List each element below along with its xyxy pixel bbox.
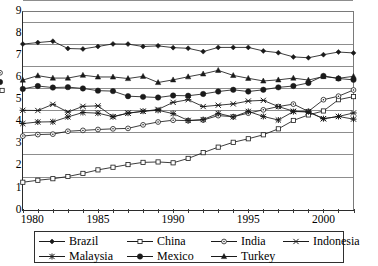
data-point [0, 70, 2, 75]
chart-legend: BrazilChinaIndiaIndonesiaMalaysiaMexicoT… [34, 231, 344, 263]
data-point [35, 108, 41, 113]
data-point [50, 85, 55, 90]
data-point [65, 114, 71, 120]
data-point [261, 133, 265, 137]
data-point [351, 88, 356, 93]
data-point [125, 93, 130, 98]
legend-item-china[interactable]: China [127, 233, 186, 249]
data-point [260, 113, 266, 119]
legend-row: MalaysiaMexicoTurkey [35, 248, 343, 264]
data-point [110, 88, 115, 93]
data-point [231, 87, 236, 92]
legend-item-indonesia[interactable]: Indonesia [283, 233, 360, 249]
legend-label: Brazil [65, 235, 98, 247]
legend-item-malaysia[interactable]: Malaysia [39, 248, 113, 264]
data-point [350, 110, 356, 115]
legend-label: Malaysia [65, 250, 113, 262]
legend-item-brazil[interactable]: Brazil [39, 233, 98, 249]
data-point [216, 89, 221, 94]
legend-marker-filled-circle-icon [127, 251, 153, 261]
data-point [80, 46, 85, 51]
data-point [276, 127, 280, 131]
legend-item-turkey[interactable]: Turkey [211, 248, 275, 264]
data-point [36, 178, 40, 182]
data-point [246, 45, 251, 50]
legend-marker-filled-triangle-icon [211, 251, 237, 261]
data-point [170, 100, 176, 105]
data-point [201, 151, 205, 155]
data-point [276, 50, 281, 55]
data-point [215, 103, 221, 108]
data-point [231, 140, 235, 144]
data-point [185, 117, 191, 123]
legend-label: Mexico [153, 250, 194, 262]
legend-label: China [153, 235, 186, 247]
data-point [21, 180, 25, 184]
data-series-layer [0, 0, 378, 266]
data-point [65, 109, 71, 114]
data-point [35, 40, 40, 45]
data-point [305, 109, 311, 115]
chart-figure: 0123456789 19801985199019952000 BrazilCh… [0, 0, 378, 266]
data-point [185, 93, 190, 98]
data-point [155, 95, 160, 100]
legend-label: India [237, 235, 266, 247]
data-point [246, 89, 251, 94]
data-point [201, 49, 206, 54]
data-point [216, 45, 221, 50]
data-point [321, 109, 325, 113]
data-point [200, 117, 206, 123]
data-point [126, 162, 130, 166]
data-point [140, 73, 145, 78]
data-point [141, 44, 146, 49]
data-point [321, 97, 326, 102]
data-point [0, 88, 4, 92]
data-point [20, 86, 25, 91]
data-point [245, 98, 251, 103]
data-point [186, 46, 191, 51]
data-point [110, 41, 115, 46]
data-point [171, 45, 176, 50]
data-point [140, 108, 146, 114]
data-point [110, 114, 116, 120]
data-point [320, 116, 326, 122]
series-brazil [20, 39, 356, 61]
data-point [260, 98, 266, 103]
data-point [20, 134, 25, 139]
data-point [35, 83, 40, 88]
data-point [335, 113, 341, 119]
data-point [155, 107, 161, 113]
data-point [65, 46, 70, 51]
data-point [66, 174, 70, 178]
data-point [125, 110, 131, 116]
data-point [156, 120, 161, 125]
data-point [291, 75, 296, 80]
data-point [200, 91, 205, 96]
data-point [50, 39, 55, 44]
data-point [111, 165, 115, 169]
data-point [245, 108, 251, 114]
legend-label: Turkey [237, 250, 275, 262]
data-point [141, 160, 145, 164]
data-point [80, 110, 86, 116]
data-point [170, 111, 176, 117]
legend-item-india[interactable]: India [211, 233, 266, 249]
data-point [20, 42, 25, 47]
data-point [156, 43, 161, 48]
legend-label: Indonesia [309, 235, 360, 247]
data-point [216, 145, 220, 149]
data-point [20, 108, 26, 113]
data-point [215, 110, 221, 116]
legend-item-mexico[interactable]: Mexico [127, 248, 194, 264]
data-point [81, 128, 86, 133]
data-point [291, 54, 296, 59]
data-point [96, 168, 100, 172]
data-point [230, 101, 236, 106]
data-point [171, 161, 175, 165]
data-point [291, 118, 295, 122]
legend-row: BrazilChinaIndiaIndonesia [35, 233, 343, 249]
data-point [95, 103, 101, 108]
data-point [170, 93, 175, 98]
legend-marker-asterisk-icon [39, 251, 65, 261]
data-point [35, 119, 41, 125]
